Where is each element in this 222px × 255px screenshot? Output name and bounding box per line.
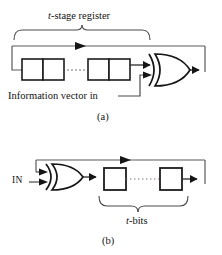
panel-b-feedback-arrow [120,156,131,164]
panel-a-ellipsis-dots [67,69,85,71]
panel-b-caption: (b) [102,236,114,247]
panel-a-brace [14,25,150,40]
panel-a-xor-gate [149,54,190,86]
panel-a-input-label: Information vector in [8,91,98,102]
panel-a-feedback-arrow [75,42,86,50]
figure-canvas [0,0,222,255]
panel-b-xor-gate [46,164,83,190]
panel-b-bracket-label: t-bits [126,216,148,227]
panel-b-gate-input1-arrow [39,169,48,176]
panel-b-gate-input2-arrow [39,179,48,186]
figure-feedback-shift-registers: t-stage register Information vector in (… [0,0,222,255]
panel-a-bracket-label: t-stage register [48,11,110,22]
panel-b-input-label: IN [12,176,23,186]
panel-b-bracket-label-rest: -bits [129,215,148,226]
panel-a-register-cells-left [22,59,64,80]
panel-a-caption: (a) [97,112,109,123]
panel-b-brace [99,196,188,212]
panel-a-bracket-label-rest: -stage register [51,10,110,21]
panel-a-gate-input2-arrow [143,72,152,79]
panel-a-register-cells-right [88,59,130,80]
